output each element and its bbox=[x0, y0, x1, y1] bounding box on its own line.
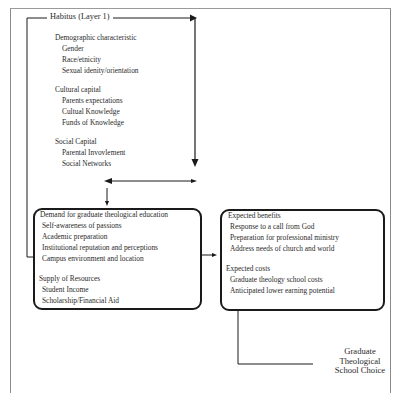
benefits-heading: Expected benefits bbox=[228, 211, 281, 222]
habitus-item: Cultual Knowledge bbox=[62, 107, 120, 118]
benefit-item: Preparation for professional ministry bbox=[230, 233, 339, 244]
demand-item: Self-awareness of passions bbox=[42, 221, 122, 232]
demand-item: Academic preparation bbox=[42, 232, 107, 243]
habitus-item: Gender bbox=[62, 44, 84, 55]
habitus-title: Habitus (Layer 1) bbox=[47, 12, 113, 21]
demographic-heading: Demographic characteristic bbox=[55, 33, 136, 44]
habitus-item: Funds of Knowledge bbox=[62, 118, 124, 129]
supply-item: Student Income bbox=[42, 285, 89, 296]
habitus-item: Social Networks bbox=[62, 159, 111, 170]
outcome-label: Graduate Theological School Choice bbox=[329, 347, 391, 376]
benefit-item: Response to a call from God bbox=[230, 222, 314, 233]
habitus-item: Parental Invovlement bbox=[62, 148, 125, 159]
cultural-capital-heading: Cultural capital bbox=[55, 85, 101, 96]
cost-item: Anticipated lower earning potential bbox=[230, 286, 335, 297]
habitus-item: Parents expectations bbox=[62, 96, 123, 107]
habitus-item: Sexual idenity/orientation bbox=[62, 66, 139, 77]
demand-item: Campus environment and location bbox=[42, 254, 144, 265]
cost-item: Graduate theology school costs bbox=[230, 275, 323, 286]
supply-heading: Supply of Resources bbox=[39, 274, 100, 285]
benefit-item: Address needs of church and world bbox=[230, 244, 334, 255]
costs-heading: Expected costs bbox=[226, 264, 270, 275]
social-capital-heading: Social Capital bbox=[55, 137, 97, 148]
habitus-item: Race/etnicity bbox=[62, 55, 101, 66]
outcome-line-3: School Choice bbox=[329, 366, 391, 376]
demand-item: Institutional reputation and perceptions bbox=[42, 243, 158, 254]
connector-lines bbox=[0, 0, 401, 402]
demand-heading: Demand for graduate theological educatio… bbox=[40, 210, 168, 221]
supply-item: Scholarship/Financial Aid bbox=[42, 296, 119, 307]
